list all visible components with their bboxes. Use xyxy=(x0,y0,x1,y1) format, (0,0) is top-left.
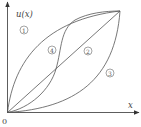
region-marker-4: 4 xyxy=(48,46,56,54)
svg-text:1: 1 xyxy=(22,27,26,34)
region-marker-2: 2 xyxy=(84,47,92,55)
svg-text:4: 4 xyxy=(50,47,54,54)
y-axis-label: u(x) xyxy=(16,9,33,19)
region-marker-1: 1 xyxy=(20,26,28,34)
origin-label: 0 xyxy=(2,117,7,126)
svg-text:2: 2 xyxy=(86,48,90,55)
x-axis-label: x xyxy=(128,100,133,110)
region-marker-3: 3 xyxy=(106,69,114,77)
utility-curves-diagram: u(x) x 0 1 2 3 4 xyxy=(0,0,141,127)
svg-text:3: 3 xyxy=(108,70,112,77)
